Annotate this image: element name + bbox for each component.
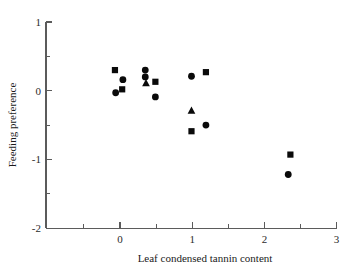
data-point-circle xyxy=(112,89,119,96)
data-point-square xyxy=(119,86,125,92)
x-tick-label: 1 xyxy=(189,233,195,245)
data-point-square xyxy=(152,79,158,85)
data-point-square xyxy=(287,151,293,157)
data-point-circle xyxy=(152,93,159,100)
data-point-triangle xyxy=(142,79,150,86)
axis-tick-labels: 10-1-20123 xyxy=(32,16,340,245)
scatter-plot: 10-1-20123 Leaf condensed tannin content… xyxy=(0,0,355,270)
x-tick-label: 0 xyxy=(117,233,123,245)
data-point-triangle xyxy=(188,106,196,113)
y-tick-label: -1 xyxy=(32,153,41,165)
y-tick-label: 1 xyxy=(36,16,42,28)
y-tick-label: -2 xyxy=(32,222,41,234)
y-axis-title: Feeding preference xyxy=(6,83,18,168)
data-point-square xyxy=(112,67,118,73)
data-point-circle xyxy=(119,76,126,83)
axes xyxy=(46,22,337,228)
axis-ticks xyxy=(46,22,337,228)
data-markers xyxy=(112,67,294,178)
data-point-circle xyxy=(285,171,292,178)
x-tick-label: 2 xyxy=(262,233,268,245)
data-point-circle xyxy=(188,73,195,80)
data-point-circle xyxy=(142,74,149,81)
data-point-square xyxy=(188,128,194,134)
y-tick-label: 0 xyxy=(36,85,42,97)
chart-figure: 10-1-20123 Leaf condensed tannin content… xyxy=(0,0,355,270)
data-point-square xyxy=(203,69,209,75)
data-point-circle xyxy=(203,122,210,129)
x-axis-title: Leaf condensed tannin content xyxy=(138,252,273,264)
x-tick-label: 3 xyxy=(334,233,340,245)
data-point-circle xyxy=(142,67,149,74)
